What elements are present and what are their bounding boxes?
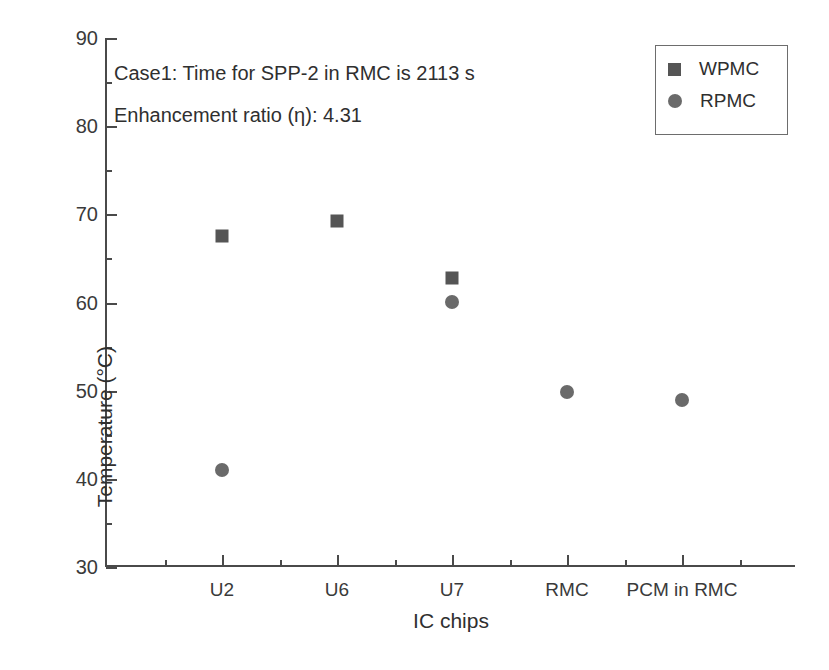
y-tick-major <box>106 214 117 216</box>
chart-annotation-2: Enhancement ratio (η): 4.31 <box>114 104 362 127</box>
y-axis-title: Temperature (°C) <box>93 302 117 507</box>
x-tick-minor <box>510 560 512 566</box>
y-tick-minor <box>106 258 112 260</box>
x-tick-major <box>337 555 339 566</box>
x-tick-minor <box>625 560 627 566</box>
x-tick-label: U2 <box>210 579 234 601</box>
legend-entry-rpmc: RPMC <box>668 90 756 112</box>
y-tick-major <box>106 38 117 40</box>
data-point-wpmc <box>216 230 229 243</box>
x-tick-minor <box>395 560 397 566</box>
x-tick-minor <box>280 560 282 566</box>
y-tick-label: 80 <box>76 115 98 138</box>
y-tick-major <box>106 567 117 569</box>
x-tick-label: U6 <box>325 579 349 601</box>
x-tick-major <box>222 555 224 566</box>
data-point-wpmc <box>331 214 344 227</box>
y-tick-minor <box>106 82 112 84</box>
x-axis-title-label: IC chips <box>413 609 489 632</box>
legend-label-wpmc: WPMC <box>699 58 759 80</box>
x-tick-label: RMC <box>545 579 588 601</box>
x-tick-label: PCM in RMC <box>627 579 738 601</box>
y-tick-label: 90 <box>76 27 98 50</box>
legend-label-rpmc: RPMC <box>700 90 756 112</box>
data-point-rpmc <box>215 463 229 477</box>
x-axis-title: IC chips <box>413 609 489 633</box>
legend-entry-wpmc: WPMC <box>668 58 759 80</box>
x-tick-minor <box>165 560 167 566</box>
wpmc-legend-marker-icon <box>668 63 681 76</box>
chart-figure: 30405060708090 U2U6U7RMCPCM in RMC Tempe… <box>0 0 829 670</box>
x-tick-major <box>452 555 454 566</box>
y-tick-minor <box>106 170 112 172</box>
data-point-rpmc <box>560 385 574 399</box>
y-tick-minor <box>106 523 112 525</box>
data-point-rpmc <box>445 295 459 309</box>
data-point-wpmc <box>446 271 459 284</box>
x-tick-major <box>567 555 569 566</box>
x-tick-minor <box>740 560 742 566</box>
data-point-rpmc <box>675 393 689 407</box>
y-axis-title-label: Temperature (°C) <box>93 346 117 507</box>
chart-annotation-1: Case1: Time for SPP-2 in RMC is 2113 s <box>114 62 475 85</box>
rpmc-legend-marker-icon <box>668 94 682 108</box>
legend-box: WPMC RPMC <box>655 45 788 135</box>
y-tick-label: 70 <box>76 203 98 226</box>
x-tick-label: U7 <box>440 579 464 601</box>
y-tick-label: 30 <box>76 556 98 579</box>
x-tick-major <box>682 555 684 566</box>
